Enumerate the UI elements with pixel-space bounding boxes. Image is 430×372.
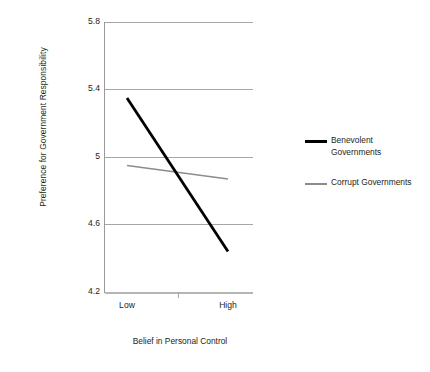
- legend-swatch-benevolent-icon: [305, 140, 327, 143]
- line-benevolent-governments: [127, 98, 228, 252]
- legend-label-benevolent: Benevolent Governments: [331, 134, 381, 158]
- x-tick-label-high: High: [188, 300, 268, 310]
- chart-legend: Benevolent Governments Corrupt Governmen…: [305, 134, 430, 207]
- x-tick-label-low: Low: [87, 300, 167, 310]
- y-axis-tick-labels: 5.8 5.4 5 4.6 4.2: [58, 0, 100, 372]
- legend-swatch-corrupt-icon: [305, 183, 327, 184]
- y-tick-label-4-2: 4.2: [60, 287, 100, 296]
- y-tick-label-5-8: 5.8: [60, 17, 100, 26]
- legend-label-corrupt: Corrupt Governments: [331, 176, 412, 188]
- y-tick-label-5-4: 5.4: [60, 84, 100, 93]
- legend-item-corrupt: Corrupt Governments: [305, 176, 430, 188]
- y-axis-title: Preference for Government Responsibility: [38, 2, 48, 252]
- legend-item-benevolent: Benevolent Governments: [305, 134, 430, 158]
- legend-label-benevolent-line-2: Governments: [331, 146, 381, 158]
- legend-label-benevolent-line-1: Benevolent: [331, 134, 381, 146]
- series-lines: [105, 22, 253, 293]
- x-axis-title: Belief in Personal Control: [75, 336, 285, 346]
- y-tick-label-5-0: 5: [60, 152, 100, 161]
- y-tick-label-4-6: 4.6: [60, 219, 100, 228]
- plot-area: [105, 22, 253, 292]
- chart-figure: Preference for Government Responsibility…: [0, 0, 430, 372]
